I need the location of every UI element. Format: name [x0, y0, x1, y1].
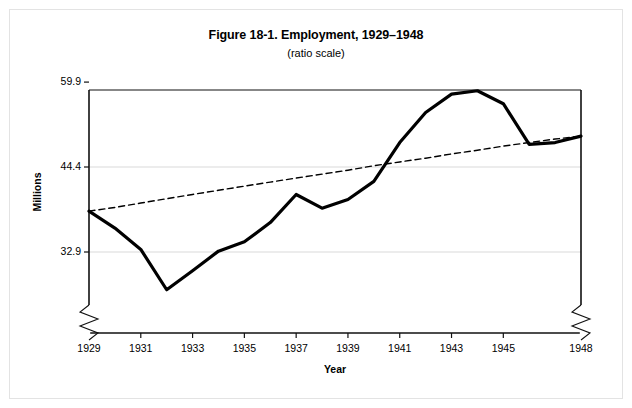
tick-marks	[84, 82, 581, 338]
y-tick-label: 44.4	[21, 160, 81, 172]
x-tick-label: 1939	[323, 342, 373, 354]
plot-frame	[89, 90, 581, 333]
x-tick-label: 1937	[271, 342, 321, 354]
figure-root: Figure 18-1. Employment, 1929–1948 (rati…	[0, 0, 632, 408]
x-tick-label: 1943	[427, 342, 477, 354]
x-tick-label: 1931	[116, 342, 166, 354]
series-line-trend	[89, 136, 581, 211]
gridlines	[89, 167, 581, 252]
x-tick-label: 1945	[478, 342, 528, 354]
x-tick-label: 1935	[219, 342, 269, 354]
x-tick-label: 1929	[64, 342, 114, 354]
x-tick-label: 1948	[556, 342, 606, 354]
x-tick-label: 1933	[168, 342, 218, 354]
axis-break-marks	[80, 305, 590, 340]
series-layer	[89, 91, 581, 290]
y-tick-label: 59.9	[21, 75, 81, 87]
y-tick-label: 32.9	[21, 245, 81, 257]
x-tick-label: 1941	[375, 342, 425, 354]
series-line-employment	[89, 91, 581, 290]
